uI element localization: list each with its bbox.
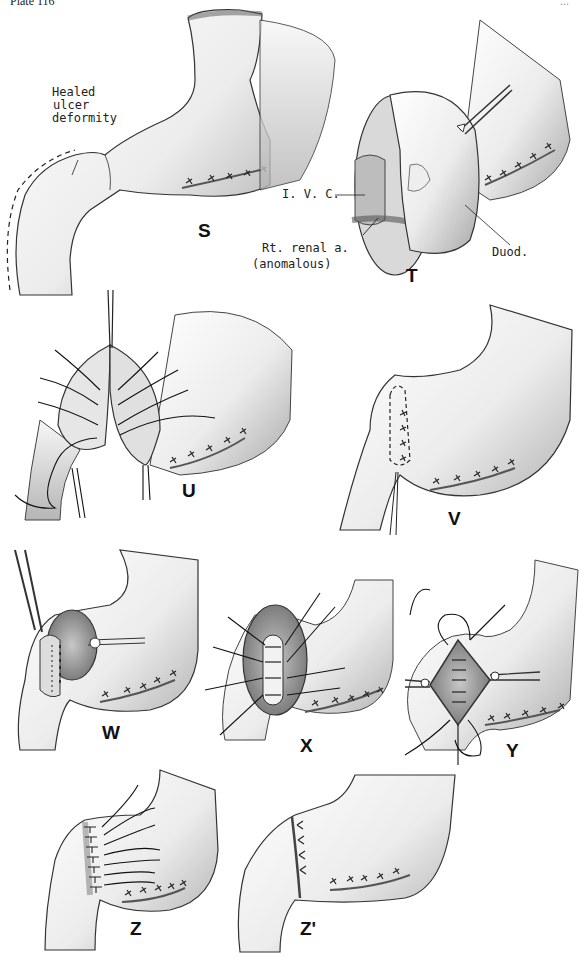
panel-label-y: Y [506,740,519,762]
annotation-anomalous: (anomalous) [252,258,331,271]
completed-pyloroplasty-drawing [235,770,581,963]
panel-y-illustration: Y [390,550,581,770]
panel-label-v: V [448,508,461,530]
traction-sutures-drawing [0,290,300,550]
page-number: ... [560,0,569,9]
panel-label-z: Z [130,918,142,940]
annotation-deformity: deformity [52,112,117,125]
annotation-ivc: I. V. C. [282,188,340,201]
panel-label-t: T [406,265,418,287]
annotation-renal-artery: Rt. renal a. [262,242,349,255]
duodenotomy-retraction-drawing [0,550,200,770]
panel-u-illustration: U [0,290,300,550]
panel-label-w: W [102,722,120,744]
panel-label-u: U [182,480,196,502]
panel-z-prime-illustration: Z' [235,770,581,963]
panel-s-illustration: Healed ulcer deformity S [0,0,290,300]
annotation-duodenum: Duod. [492,246,528,259]
transverse-closure-drawing [390,550,581,770]
panel-w-illustration: W [0,550,200,770]
panel-t-illustration: I. V. C. Rt. renal a. (anomalous) Duod. … [260,20,581,310]
panel-label-z-prime: Z' [300,918,316,940]
panel-v-illustration: V [300,290,581,550]
mucosal-closure-drawing [195,550,395,770]
panel-label-s: S [198,220,211,242]
stomach-duodenum-drawing [0,0,290,300]
panel-z-illustration: Z [0,770,240,963]
panel-label-x: X [300,735,313,757]
pyloroplasty-closure-drawing [300,290,581,550]
panel-x-illustration: X [195,550,395,770]
interrupted-suture-closure-drawing [0,770,240,963]
